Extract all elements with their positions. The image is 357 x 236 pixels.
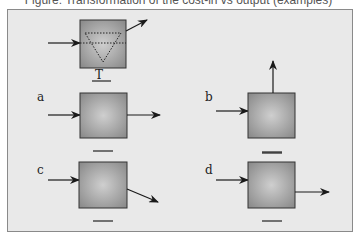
panel-a: a (37, 90, 160, 151)
diagram-canvas: T a b c d (0, 0, 357, 236)
output-arrow-diagonal-icon (127, 189, 158, 202)
panel-label-d: d (205, 163, 213, 177)
panel-d: d (205, 153, 329, 221)
reference-box-group: T (48, 20, 147, 82)
box-d (248, 162, 295, 208)
reference-label: T (95, 68, 103, 82)
output-arrow-icon (126, 20, 147, 31)
box-c (79, 162, 127, 208)
panel-label-c: c (37, 163, 44, 177)
panel-b: b (205, 61, 295, 152)
reference-box (80, 20, 126, 68)
panel-c: c (37, 152, 158, 221)
box-a (80, 93, 127, 138)
box-b (248, 93, 295, 138)
panel-label-b: b (205, 90, 213, 104)
panel-label-a: a (37, 90, 44, 104)
